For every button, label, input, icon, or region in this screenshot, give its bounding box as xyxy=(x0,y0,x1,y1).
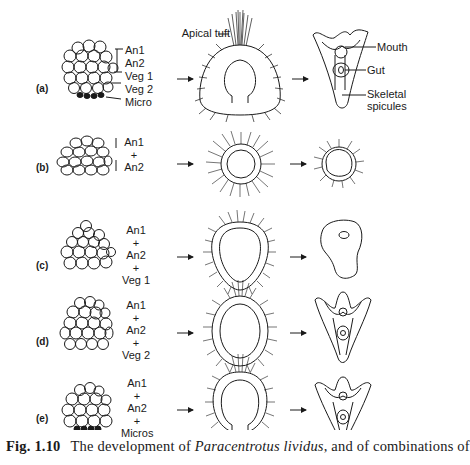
row-letter-a: (a) xyxy=(36,83,48,94)
tier-an2: An2 xyxy=(125,57,145,70)
tier-veg1: Veg 1 xyxy=(125,70,153,83)
blastula-d-icon xyxy=(203,280,277,372)
label-gut: Gut xyxy=(367,64,385,77)
stack-plus: + xyxy=(121,237,151,250)
stack-item: Veg 1 xyxy=(121,274,151,287)
stack-item: An2 xyxy=(121,324,151,337)
caption-text-1: The development of xyxy=(71,438,195,454)
stack-plus: + xyxy=(121,415,153,428)
stack-item: An1 xyxy=(121,377,153,390)
stack-item: An1 xyxy=(121,299,151,312)
blastula-e-icon xyxy=(205,354,275,430)
stack-item: An1 xyxy=(121,136,147,149)
caption-text-2: , and of combinations of xyxy=(324,438,470,454)
stack-item: An2 xyxy=(121,249,151,262)
combination-c: An1 + An2 + Veg 1 xyxy=(121,224,151,287)
combination-d: An1 + An2 + Veg 2 xyxy=(121,299,151,362)
stack-plus: + xyxy=(121,262,151,275)
combination-e: An1 + An2 + Micros xyxy=(121,377,153,440)
stack-plus: + xyxy=(121,149,147,162)
tier-veg2: Veg 2 xyxy=(125,83,153,96)
stack-plus: + xyxy=(121,312,151,325)
embryo-d-icon xyxy=(60,297,113,350)
stack-item: An1 xyxy=(121,224,151,237)
stack-item: Veg 2 xyxy=(121,349,151,362)
row-letter-c: (c) xyxy=(36,260,48,271)
row-letter-e: (e) xyxy=(36,413,48,424)
ciliated-ball-b-icon xyxy=(314,139,364,188)
stack-plus: + xyxy=(121,337,151,350)
embryo-b-icon xyxy=(57,136,116,175)
row-letter-d: (d) xyxy=(36,336,49,347)
pluteus-e-icon xyxy=(315,377,371,430)
embryo-c-icon xyxy=(61,221,116,270)
figure-caption: Fig. 1.10The development of Paracentrotu… xyxy=(6,438,438,455)
embryo-e-icon xyxy=(62,383,112,431)
row-letter-b: (b) xyxy=(36,162,49,173)
stack-item: An2 xyxy=(121,402,153,415)
tier-an1: An1 xyxy=(125,44,145,57)
tier-micro: Micro xyxy=(125,96,152,109)
stack-item: An2 xyxy=(121,161,147,174)
pluteus-d-icon xyxy=(315,292,371,363)
blastula-b-icon xyxy=(206,131,275,197)
stack-plus: + xyxy=(121,390,153,403)
blastula-c-icon xyxy=(203,210,276,294)
abnormal-larva-c-icon xyxy=(321,220,362,278)
caption-label: Fig. 1.10 xyxy=(6,438,61,454)
caption-species: Paracentrotus lividus xyxy=(195,438,324,454)
label-spicules: spicules xyxy=(367,100,407,113)
label-apical-tuft: Apical tuft xyxy=(182,27,230,40)
combination-b: An1 + An2 xyxy=(121,136,147,174)
embryo-a-icon xyxy=(62,40,123,99)
label-mouth: Mouth xyxy=(377,41,408,54)
